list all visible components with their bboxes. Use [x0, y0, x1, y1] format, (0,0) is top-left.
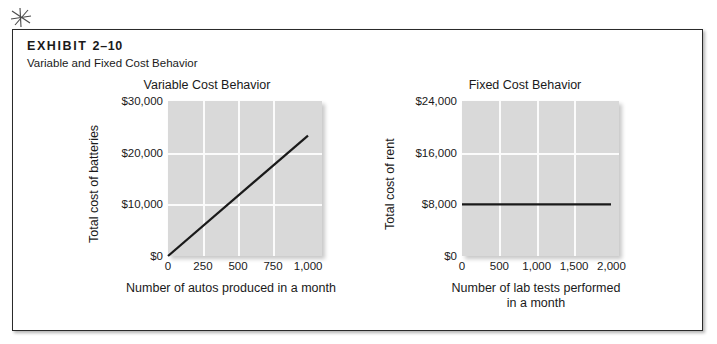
fixed-cost-line: [462, 101, 619, 256]
exhibit-number: 2–10: [93, 39, 123, 53]
x-axis-title-line2: in a month: [391, 296, 681, 311]
plot-area: [168, 101, 322, 256]
x-tick-label: 500: [490, 260, 509, 272]
y-tick-label: $10,000: [121, 198, 163, 210]
x-tick-label: 1,000: [294, 260, 323, 272]
chart-title: Fixed Cost Behavior: [419, 78, 631, 92]
y-axis-title: Total cost of batteries: [87, 125, 101, 243]
x-tick-label: 500: [228, 260, 247, 272]
y-axis-tick-labels: $30,000 $20,000 $10,000 $0: [95, 101, 163, 256]
x-tick-label: 0: [165, 260, 171, 272]
chart-fixed-cost-behavior: Fixed Cost Behavior $24,000 $16,000 $8,0…: [381, 78, 701, 328]
y-tick-label: $20,000: [121, 147, 163, 159]
x-axis-tick-labels: 0 500 1,000 1,500 2,000: [462, 260, 619, 276]
x-tick-label: 1,500: [560, 260, 589, 272]
charts-row: Variable Cost Behavior $30,000 $20,000 $…: [13, 78, 704, 328]
chart-variable-cost-behavior: Variable Cost Behavior $30,000 $20,000 $…: [73, 78, 403, 328]
y-axis-title: Total cost of rent: [383, 138, 397, 230]
x-tick-label: 0: [459, 260, 465, 272]
exhibit-frame: EXHIBIT 2–10 Variable and Fixed Cost Beh…: [12, 29, 703, 331]
y-tick-label: $0: [444, 250, 457, 262]
plot-area: [462, 101, 619, 256]
y-tick-label: $30,000: [121, 95, 163, 107]
x-tick-label: 2,000: [597, 260, 626, 272]
y-axis-tick-labels: $24,000 $16,000 $8,000 $0: [387, 101, 457, 256]
x-axis-title-line1: Number of lab tests performed: [391, 281, 681, 296]
exhibit-subtitle: Variable and Fixed Cost Behavior: [27, 57, 197, 69]
y-tick-label: $0: [150, 250, 163, 262]
y-tick-label: $24,000: [415, 95, 457, 107]
x-axis-title: Number of autos produced in a month: [81, 281, 381, 296]
y-tick-label: $8,000: [422, 198, 457, 210]
exhibit-label: EXHIBIT 2–10: [27, 39, 197, 53]
x-axis-title: Number of lab tests performed in a month: [391, 281, 681, 311]
chart-title: Variable Cost Behavior: [101, 78, 313, 92]
y-tick-label: $16,000: [415, 147, 457, 159]
x-tick-label: 250: [193, 260, 212, 272]
variable-cost-line: [168, 101, 322, 256]
scan-artifact-star-mark: [6, 2, 36, 32]
x-axis-tick-labels: 0 250 500 750 1,000: [168, 260, 322, 276]
x-tick-label: 1,000: [522, 260, 551, 272]
exhibit-label-text: EXHIBIT: [27, 39, 88, 53]
exhibit-header: EXHIBIT 2–10 Variable and Fixed Cost Beh…: [27, 39, 197, 69]
x-tick-label: 750: [263, 260, 282, 272]
